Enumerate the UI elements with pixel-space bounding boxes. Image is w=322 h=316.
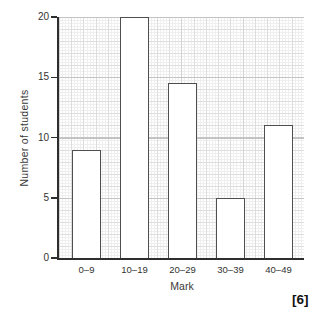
y-tick-label-15: 15 (23, 72, 49, 82)
bar-30–39 (216, 198, 245, 258)
x-axis-title: Mark (170, 280, 193, 292)
y-tick-label-20: 20 (23, 12, 49, 22)
x-category-label-0–9: 0–9 (79, 264, 95, 275)
plot-area (57, 17, 304, 260)
x-category-label-30–39: 30–39 (217, 264, 243, 275)
y-tick-label-5: 5 (23, 193, 49, 203)
x-category-label-40–49: 40–49 (265, 264, 291, 275)
bar-40–49 (264, 125, 293, 258)
y-tick-mark (51, 137, 57, 139)
bar-chart-figure: Number of students Mark [6] 051015200–91… (0, 0, 322, 316)
y-tick-mark (51, 257, 57, 259)
y-tick-label-10: 10 (23, 133, 49, 143)
y-tick-label-0: 0 (23, 253, 49, 263)
y-tick-mark (51, 77, 57, 79)
bar-20–29 (168, 83, 197, 258)
x-category-label-10–19: 10–19 (121, 264, 147, 275)
bar-0–9 (72, 150, 101, 258)
marks-badge: [6] (292, 292, 309, 307)
bar-10–19 (120, 17, 149, 258)
x-category-label-20–29: 20–29 (169, 264, 195, 275)
y-tick-mark (51, 197, 57, 199)
y-tick-mark (51, 16, 57, 18)
